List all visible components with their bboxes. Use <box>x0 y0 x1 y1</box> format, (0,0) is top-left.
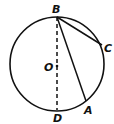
chord-ba <box>57 17 86 101</box>
label-d: D <box>53 112 62 124</box>
label-b: B <box>52 3 60 16</box>
chord-bc <box>57 17 102 45</box>
center-point <box>56 65 59 68</box>
label-c: C <box>104 42 112 55</box>
circle-diagram: B C O A D <box>0 0 114 124</box>
label-a: A <box>83 104 93 117</box>
label-o: O <box>44 61 53 74</box>
